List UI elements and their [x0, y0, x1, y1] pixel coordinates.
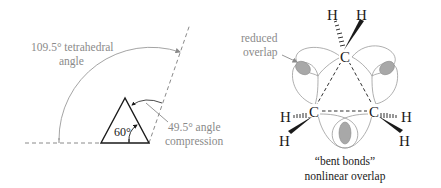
- overlap-region-right: [377, 58, 397, 77]
- bent-bonds-caption-line2: nonlinear overlap: [305, 170, 386, 183]
- hashed-bond-left-upper: [294, 113, 309, 118]
- wedge-bond-top-right: [344, 19, 364, 50]
- hydrogen-left-lower: H: [279, 133, 290, 149]
- overlap-region-bottom: [339, 122, 351, 144]
- orbital-lobes-left-bond: [292, 47, 341, 105]
- hydrogen-right-lower: H: [399, 133, 410, 149]
- hashed-bond-top-left: [334, 21, 345, 46]
- bent-bonds-diagram: reduced overlap: [241, 7, 412, 183]
- compression-leader: [146, 103, 168, 122]
- reduced-overlap-arrow: [282, 55, 297, 62]
- carbon-top: C: [340, 49, 350, 65]
- diagram-canvas: 60° 109.5° tetrahedral angle 49.5° angle…: [0, 0, 441, 188]
- ring-dashed-bonds: [317, 62, 372, 111]
- hashed-bond-right-upper: [381, 113, 396, 118]
- bent-bonds-caption-line1: “bent bonds”: [315, 155, 375, 167]
- internal-angle-label: 60°: [114, 125, 131, 139]
- carbon-left: C: [309, 104, 319, 120]
- tetrahedral-label-line1: 109.5° tetrahedral: [31, 41, 114, 53]
- reduced-overlap-line2: overlap: [243, 46, 278, 59]
- tetrahedral-label-line2: angle: [59, 55, 84, 68]
- hydrogen-top-left: H: [327, 7, 338, 23]
- orbital-lobes-right-bond: [352, 46, 398, 104]
- hydrogen-right-upper: H: [401, 109, 412, 125]
- wedge-bond-right-lower: [378, 116, 403, 133]
- compression-label-line2: compression: [165, 135, 223, 148]
- angle-strain-diagram: 60° 109.5° tetrahedral angle 49.5° angle…: [25, 24, 223, 148]
- carbon-right: C: [369, 104, 379, 120]
- compression-label-line1: 49.5° angle: [168, 121, 221, 134]
- reduced-overlap-line1: reduced: [241, 32, 278, 44]
- hydrogen-top-right: H: [356, 7, 367, 23]
- hydrogen-left-upper: H: [280, 109, 291, 125]
